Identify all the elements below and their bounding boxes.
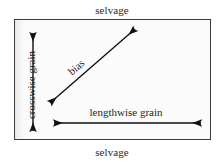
fabric-grain-diagram: selvage crosswise grain lengthwise grain… (0, 0, 224, 167)
selvage-bottom-label: selvage (0, 146, 224, 158)
lengthwise-grain-label: lengthwise grain (66, 106, 186, 118)
bias-arrow (50, 29, 135, 103)
crosswise-grain-label: crosswise grain (25, 30, 37, 140)
